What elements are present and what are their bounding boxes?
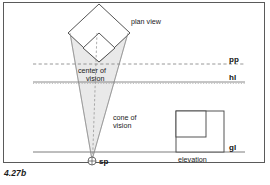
station-point-label: sp xyxy=(99,157,108,166)
elevation-inner-square xyxy=(176,111,206,137)
figure-container: plan view center of vision cone of visio… xyxy=(0,0,270,185)
station-point-marker xyxy=(88,157,96,165)
plan-view-label: plan view xyxy=(131,17,162,26)
perspective-construction-diagram: plan view center of vision cone of visio… xyxy=(0,0,270,185)
cone-of-vision-label-line2: vision xyxy=(113,121,131,130)
center-of-vision-label-line2: vision xyxy=(86,74,104,83)
figure-caption: 4.27b xyxy=(4,168,26,178)
picture-plane-label: pp xyxy=(229,55,239,64)
ground-line-label: gl xyxy=(229,143,236,152)
elevation-label: elevation xyxy=(178,155,207,164)
horizon-line-label: hl xyxy=(229,73,236,82)
